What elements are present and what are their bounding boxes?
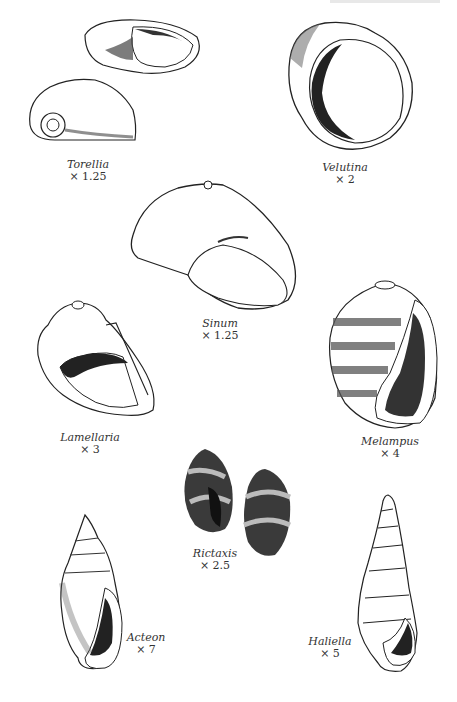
caption-haliella: Haliella × 5 bbox=[295, 636, 365, 660]
velutina-illustration bbox=[280, 18, 420, 153]
caption-acteon: Acteon × 7 bbox=[116, 632, 176, 656]
caption-melampus: Melampus × 4 bbox=[345, 436, 435, 460]
specimen-magnification: × 5 bbox=[295, 648, 365, 660]
melampus-illustration bbox=[325, 278, 445, 433]
specimen-magnification: × 1.25 bbox=[175, 330, 265, 342]
specimen-magnification: × 2.5 bbox=[170, 560, 260, 572]
specimen-magnification: × 4 bbox=[345, 448, 435, 460]
scan-edge-artifact bbox=[330, 0, 440, 3]
lamellaria-illustration bbox=[28, 295, 163, 420]
specimen-magnification: × 3 bbox=[45, 444, 135, 456]
caption-velutina: Velutina × 2 bbox=[300, 162, 390, 186]
caption-torellia: Torellia × 1.25 bbox=[43, 159, 133, 183]
caption-lamellaria: Lamellaria × 3 bbox=[45, 432, 135, 456]
rictaxis-illustration bbox=[180, 447, 295, 562]
caption-rictaxis: Rictaxis × 2.5 bbox=[170, 548, 260, 572]
specimen-magnification: × 2 bbox=[300, 174, 390, 186]
specimen-magnification: × 7 bbox=[116, 644, 176, 656]
specimen-magnification: × 1.25 bbox=[43, 171, 133, 183]
torellia-illustration bbox=[25, 15, 205, 150]
caption-sinum: Sinum × 1.25 bbox=[175, 318, 265, 342]
